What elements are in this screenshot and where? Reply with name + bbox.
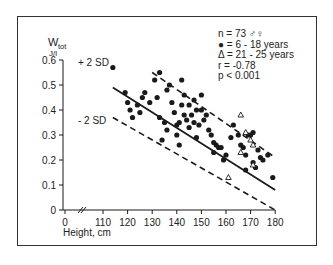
legend-entry: ● = 6 - 18 years	[218, 39, 288, 50]
data-point-child	[162, 120, 167, 125]
data-point-child	[194, 135, 199, 140]
legend-entry: p < 0.001	[218, 70, 260, 81]
data-point-child	[243, 152, 248, 157]
data-point-child	[199, 107, 204, 112]
x-tick-label: 150	[193, 217, 210, 228]
data-point-child	[184, 117, 189, 122]
y-tick-label: 0	[50, 205, 56, 216]
data-point-adult	[226, 175, 232, 180]
data-point-child	[172, 110, 177, 115]
x-tick-label: 120	[119, 217, 136, 228]
data-point-child	[157, 70, 162, 75]
data-point-child	[196, 122, 201, 127]
legend-entry: r = -0.78	[218, 60, 256, 71]
scatter-chart: 00.10.20.30.40.50.6011012013014015016017…	[0, 0, 333, 265]
data-point-child	[241, 145, 246, 150]
data-point-child	[142, 90, 147, 95]
data-point-adult	[238, 112, 244, 117]
data-point-child	[164, 87, 169, 92]
data-point-child	[218, 145, 223, 150]
data-point-child	[164, 127, 169, 132]
data-point-child	[221, 157, 226, 162]
data-point-child	[110, 65, 115, 70]
y-tick-label: 0.2	[42, 155, 56, 166]
y-tick-label: 0.1	[42, 180, 56, 191]
legend: n = 73 ♂♀● = 6 - 18 yearsΔ = 21 - 25 yea…	[218, 28, 294, 81]
data-point-child	[187, 102, 192, 107]
data-point-child	[211, 150, 216, 155]
data-point-child	[223, 152, 228, 157]
data-point-child	[147, 100, 152, 105]
data-point-child	[206, 127, 211, 132]
data-point-child	[125, 100, 130, 105]
data-point-child	[199, 92, 204, 97]
data-point-child	[137, 110, 142, 115]
data-point-child	[157, 115, 162, 120]
data-point-child	[127, 107, 132, 112]
data-point-child	[250, 130, 255, 135]
data-point-child	[191, 97, 196, 102]
x-axis-label: Height, cm	[63, 227, 111, 238]
data-point-child	[167, 82, 172, 87]
data-point-child	[255, 147, 260, 152]
axis-labels: W tot J/l Height, cm + 2 SD - 2 SD	[48, 36, 111, 238]
data-point-adult	[243, 130, 249, 135]
data-point-child	[155, 95, 160, 100]
data-point-child	[123, 90, 128, 95]
data-point-child	[243, 167, 248, 172]
data-point-child	[231, 122, 236, 127]
data-point-child	[191, 120, 196, 125]
data-point-child	[159, 137, 164, 142]
data-point-child	[265, 152, 270, 157]
data-point-child	[177, 120, 182, 125]
data-point-child	[270, 175, 275, 180]
y-axis-label-unit: J/l	[49, 49, 57, 58]
data-point-child	[189, 112, 194, 117]
data-point-child	[182, 112, 187, 117]
upper-2sd-label: + 2 SD	[78, 57, 109, 68]
data-point-child	[260, 157, 265, 162]
y-tick-label: 0.4	[42, 105, 56, 116]
data-point-child	[204, 112, 209, 117]
data-point-adult	[238, 150, 244, 155]
x-tick-label: 130	[144, 217, 161, 228]
legend-entry: n = 73 ♂♀	[218, 28, 264, 39]
data-point-child	[177, 142, 182, 147]
x-tick-label: 140	[168, 217, 185, 228]
data-point-child	[187, 125, 192, 130]
data-point-adult	[248, 137, 254, 142]
data-point-child	[182, 92, 187, 97]
data-point-child	[179, 77, 184, 82]
data-point-child	[179, 102, 184, 107]
data-point-child	[140, 95, 145, 100]
y-tick-label: 0.5	[42, 80, 56, 91]
data-point-child	[228, 135, 233, 140]
data-point-child	[174, 132, 179, 137]
data-point-child	[152, 77, 157, 82]
data-point-child	[201, 117, 206, 122]
x-tick-label: 170	[242, 217, 259, 228]
data-point-child	[135, 102, 140, 107]
data-point-child	[209, 132, 214, 137]
data-point-child	[236, 132, 241, 137]
data-point-child	[169, 100, 174, 105]
lower-2sd-label: - 2 SD	[78, 115, 106, 126]
x-tick-label: 180	[267, 217, 284, 228]
data-point-child	[194, 107, 199, 112]
y-tick-label: 0.3	[42, 130, 56, 141]
x-tick-label: 160	[218, 217, 235, 228]
y-axis-label-sub: tot	[58, 42, 67, 51]
data-point-child	[130, 115, 135, 120]
legend-entry: Δ = 21 - 25 years	[218, 49, 294, 60]
